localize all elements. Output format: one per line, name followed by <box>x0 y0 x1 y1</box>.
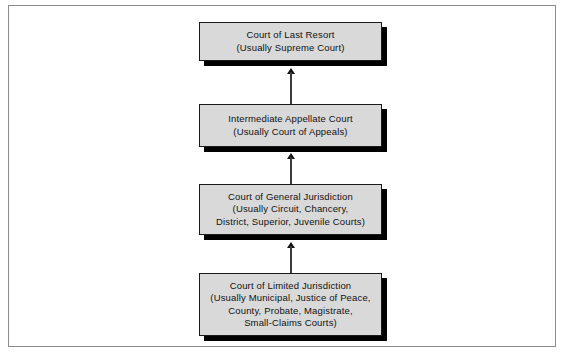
appeal-arrow-up-icon <box>284 153 298 185</box>
diagram-canvas: Court of Last Resort (Usually Supreme Co… <box>0 0 565 362</box>
diagram-frame: Court of Last Resort (Usually Supreme Co… <box>8 5 556 347</box>
court-box-court-of-limited-jurisdiction[interactable]: Court of Limited Jurisdiction (Usually M… <box>199 273 382 336</box>
court-box-label: Court of General Jurisdiction (Usually C… <box>210 191 371 229</box>
arrow-shaft <box>290 246 292 274</box>
appeal-arrow-up-icon <box>284 242 298 274</box>
court-box-intermediate-appellate-court[interactable]: Intermediate Appellate Court (Usually Co… <box>199 104 382 147</box>
arrow-shaft <box>290 72 292 105</box>
court-box-label: Intermediate Appellate Court (Usually Co… <box>222 113 359 138</box>
appeal-arrow-up-icon <box>284 68 298 105</box>
arrow-shaft <box>290 157 292 185</box>
court-box-label: Court of Limited Jurisdiction (Usually M… <box>204 280 376 330</box>
court-box-court-of-general-jurisdiction[interactable]: Court of General Jurisdiction (Usually C… <box>199 184 382 235</box>
court-box-label: Court of Last Resort (Usually Supreme Co… <box>231 29 351 54</box>
court-box-court-of-last-resort[interactable]: Court of Last Resort (Usually Supreme Co… <box>199 22 382 61</box>
